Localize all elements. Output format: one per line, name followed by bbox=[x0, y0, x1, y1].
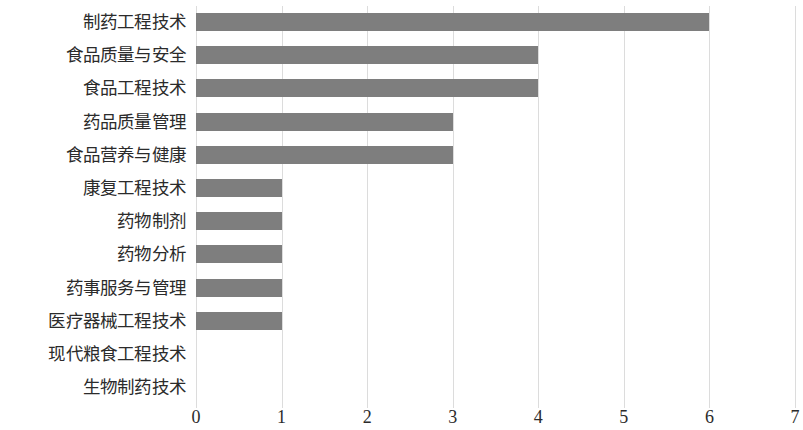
category-label: 药品质量管理 bbox=[0, 113, 186, 131]
gridline bbox=[367, 6, 368, 408]
gridline bbox=[196, 6, 197, 408]
gridline bbox=[282, 6, 283, 408]
x-tick-label: 7 bbox=[775, 406, 803, 428]
gridline bbox=[453, 6, 454, 408]
category-label: 食品工程技术 bbox=[0, 79, 186, 97]
category-label: 食品质量与安全 bbox=[0, 46, 186, 64]
plot-area bbox=[196, 0, 795, 404]
x-tick-label: 0 bbox=[176, 406, 216, 428]
bar bbox=[196, 46, 538, 64]
category-label: 生物制药技术 bbox=[0, 378, 186, 396]
category-label: 药物制剂 bbox=[0, 212, 186, 230]
x-tick-label: 2 bbox=[347, 406, 387, 428]
category-label: 康复工程技术 bbox=[0, 179, 186, 197]
gridline bbox=[538, 6, 539, 408]
bar bbox=[196, 179, 282, 197]
bar bbox=[196, 79, 538, 97]
bar bbox=[196, 113, 453, 131]
x-tick-label: 3 bbox=[433, 406, 473, 428]
bar bbox=[196, 312, 282, 330]
category-label: 医疗器械工程技术 bbox=[0, 312, 186, 330]
x-tick-label: 4 bbox=[518, 406, 558, 428]
bar bbox=[196, 13, 709, 31]
gridline bbox=[624, 6, 625, 408]
category-axis: 制药工程技术食品质量与安全食品工程技术药品质量管理食品营养与健康康复工程技术药物… bbox=[0, 0, 188, 430]
bar-chart: 制药工程技术食品质量与安全食品工程技术药品质量管理食品营养与健康康复工程技术药物… bbox=[0, 0, 803, 430]
bar bbox=[196, 245, 282, 263]
x-tick-label: 5 bbox=[604, 406, 644, 428]
category-label: 药物分析 bbox=[0, 245, 186, 263]
x-tick-label: 6 bbox=[689, 406, 729, 428]
bar bbox=[196, 212, 282, 230]
gridline bbox=[709, 6, 710, 408]
category-label: 药事服务与管理 bbox=[0, 279, 186, 297]
gridline bbox=[795, 6, 796, 408]
bar bbox=[196, 279, 282, 297]
x-tick-label: 1 bbox=[262, 406, 302, 428]
category-label: 制药工程技术 bbox=[0, 13, 186, 31]
category-label: 现代粮食工程技术 bbox=[0, 345, 186, 363]
bar bbox=[196, 146, 453, 164]
category-label: 食品营养与健康 bbox=[0, 146, 186, 164]
value-axis: 01234567 bbox=[196, 404, 795, 430]
